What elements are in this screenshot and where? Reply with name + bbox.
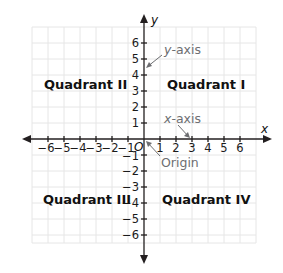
svg-text:Origin: Origin	[161, 155, 199, 170]
y-axis-annotation: y-axis	[146, 42, 201, 68]
svg-text:−2: −2	[122, 164, 139, 178]
svg-text:y-axis: y-axis	[163, 42, 201, 57]
svg-text:4: 4	[132, 68, 139, 82]
svg-text:−1: −1	[122, 149, 139, 163]
svg-text:−5: −5	[54, 141, 71, 155]
svg-text:5: 5	[220, 141, 227, 155]
svg-text:−5: −5	[122, 212, 139, 226]
quadrant-i-label: Quadrant I	[167, 77, 245, 92]
quadrant-ii-label: Quadrant II	[44, 77, 127, 92]
svg-text:3: 3	[132, 84, 139, 98]
svg-text:5: 5	[132, 52, 139, 66]
svg-text:x-axis: x-axis	[163, 111, 201, 126]
svg-text:3: 3	[188, 141, 195, 155]
svg-text:6: 6	[132, 36, 139, 50]
y-axis-down-arrow-icon	[140, 255, 148, 264]
y-axis-up-arrow-icon	[140, 14, 148, 23]
svg-text:1: 1	[132, 116, 139, 130]
x-axis-label: x	[260, 122, 269, 136]
svg-text:2: 2	[172, 141, 179, 155]
svg-text:6: 6	[236, 141, 243, 155]
x-axis-annotation: x-axis	[163, 111, 201, 138]
svg-text:−6: −6	[38, 141, 55, 155]
svg-text:4: 4	[204, 141, 211, 155]
svg-text:−3: −3	[86, 141, 103, 155]
svg-text:−4: −4	[70, 141, 87, 155]
svg-text:2: 2	[132, 100, 139, 114]
svg-text:−6: −6	[122, 228, 139, 242]
x-axis-right-arrow-icon	[263, 135, 272, 143]
svg-text:−2: −2	[102, 141, 119, 155]
quadrant-iv-label: Quadrant IV	[162, 192, 250, 207]
coordinate-plane: y x −6 −5 −4 −3 −2 −1 1 2 3 4 5 6 O 1 2 …	[0, 0, 283, 273]
y-axis-label: y	[150, 13, 159, 27]
quadrant-iii-label: Quadrant III	[43, 192, 131, 207]
x-axis-left-arrow-icon	[22, 135, 31, 143]
